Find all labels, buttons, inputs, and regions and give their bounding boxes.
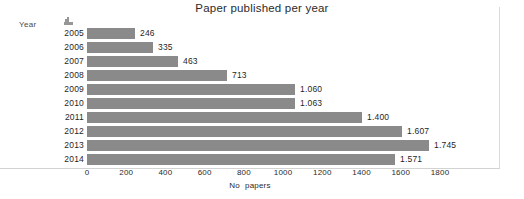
bar[interactable] bbox=[87, 28, 135, 39]
bar-value-label: 463 bbox=[183, 56, 198, 67]
bar[interactable] bbox=[87, 126, 402, 137]
x-tick-label: 1000 bbox=[274, 168, 293, 177]
x-tick-label: 1400 bbox=[352, 168, 371, 177]
x-tick-label: 400 bbox=[158, 168, 172, 177]
x-axis-title-part2: papers bbox=[245, 181, 271, 190]
bar-category-label: 2010 bbox=[40, 98, 84, 109]
bar[interactable] bbox=[87, 154, 395, 165]
bar[interactable] bbox=[87, 56, 178, 67]
bar-value-label: 335 bbox=[158, 42, 173, 53]
x-tick-label: 200 bbox=[119, 168, 133, 177]
x-axis-ticks: 020040060080010001200140016001800 bbox=[0, 168, 500, 182]
bar-value-label: 713 bbox=[232, 70, 247, 81]
x-tick-label: 600 bbox=[198, 168, 212, 177]
bar[interactable] bbox=[87, 84, 295, 95]
bar[interactable] bbox=[87, 98, 295, 109]
bar-value-label: 1.063 bbox=[300, 98, 322, 109]
bar-value-label: 1.571 bbox=[400, 154, 422, 165]
bar-category-label: 2014 bbox=[40, 154, 84, 165]
bar-value-label: 246 bbox=[140, 28, 155, 39]
bar[interactable] bbox=[87, 112, 362, 123]
bar[interactable] bbox=[87, 140, 429, 151]
bar-value-label: 1.607 bbox=[407, 126, 429, 137]
x-tick-label: 1600 bbox=[391, 168, 410, 177]
bar-category-label: 2009 bbox=[40, 84, 84, 95]
bar-category-label: 2008 bbox=[40, 70, 84, 81]
bar-value-label: 1.400 bbox=[367, 112, 389, 123]
bar[interactable] bbox=[87, 42, 153, 53]
scan-artifact-mark bbox=[64, 17, 73, 25]
bar-value-label: 1.060 bbox=[300, 84, 322, 95]
bar-category-label: 2013 bbox=[40, 140, 84, 151]
x-tick-label: 1200 bbox=[313, 168, 332, 177]
bar-category-label: 2006 bbox=[40, 42, 84, 53]
x-tick-label: 800 bbox=[237, 168, 251, 177]
bar-value-label: 1.745 bbox=[434, 140, 456, 151]
bar-category-label: 2011 bbox=[40, 112, 84, 123]
bar[interactable] bbox=[87, 70, 227, 81]
x-axis-title: Nopapers bbox=[0, 181, 500, 190]
x-axis-title-part1: No bbox=[229, 181, 240, 190]
x-tick-label: 1800 bbox=[431, 168, 450, 177]
bar-category-label: 2005 bbox=[40, 28, 84, 39]
bar-category-label: 2007 bbox=[40, 56, 84, 67]
chart-title: Paper published per year bbox=[0, 2, 524, 14]
bar-category-label: 2012 bbox=[40, 126, 84, 137]
x-tick-label: 0 bbox=[85, 168, 90, 177]
plot-area: 200524620063352007463200871320091.060201… bbox=[0, 27, 500, 168]
